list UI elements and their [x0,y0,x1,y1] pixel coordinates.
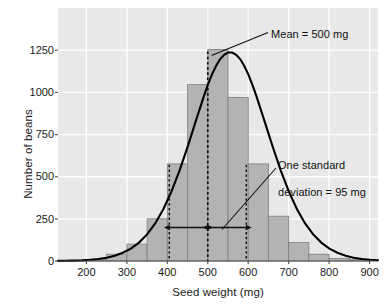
y-axis-title: Number of beans [22,74,34,234]
sd-annotation-line2: deviation = 95 mg [278,186,366,198]
x-tick-label: 800 [307,266,351,278]
x-tick-label: 600 [226,266,270,278]
sd-annotation-line1: One standard [278,159,345,171]
histogram-bar [269,216,289,261]
x-tick-label: 500 [186,266,230,278]
x-axis-title: Seed weight (mg) [58,286,378,298]
y-tick-label: 0 [8,256,54,267]
x-tick-label: 200 [64,266,108,278]
histogram-figure: 1250 1000 750 500 250 0 200 300 400 500 … [0,0,387,308]
x-tick-label: 700 [267,266,311,278]
histogram-bar [289,242,309,261]
y-tick-label: 1250 [8,45,54,56]
histogram-bar [248,164,268,261]
x-tick-label: 900 [348,266,387,278]
histogram-bar [147,219,167,261]
histogram-bar [309,254,329,261]
sd-annotation-label: One standard deviation = 95 mg [278,145,366,199]
x-tick-label: 300 [105,266,149,278]
x-tick-label: 400 [145,266,189,278]
histogram-bar [228,97,248,261]
histogram-bar [188,85,208,261]
mean-annotation-label: Mean = 500 mg [271,28,348,42]
y-tick-marks [55,50,58,261]
histogram-bar [208,49,228,261]
histogram-bar [127,244,147,261]
